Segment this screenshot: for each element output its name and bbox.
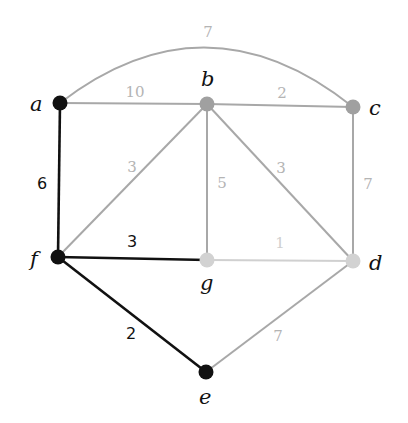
node-g [200,253,215,268]
edge-weight-b-c: 2 [277,84,287,102]
edge-weight-d-e: 7 [273,327,283,345]
node-c [346,100,361,115]
node-labels-layer: abcfgde [28,67,382,409]
nodes-layer [51,96,361,380]
edge-weight-f-g: 3 [127,232,137,251]
node-label-c: c [369,96,381,120]
edge-weight-b-f: 3 [127,158,137,176]
node-label-b: b [201,67,214,91]
edge-b-c [207,104,353,107]
edge-f-g [58,257,207,260]
node-label-a: a [30,92,43,116]
edge-weight-b-g: 5 [217,174,227,192]
edge-a-b [60,103,207,104]
node-b [200,97,215,112]
edge-f-e [58,257,206,372]
node-label-f: f [28,247,41,271]
edge-weight-g-d: 1 [275,234,285,252]
weighted-graph-diagram: 7102635373127 abcfgde [0,0,408,423]
node-d [346,254,361,269]
edge-a-f [58,103,60,257]
edges-layer [58,47,353,372]
edge-weight-c-d: 7 [363,175,373,193]
node-label-d: d [369,251,382,275]
node-e [199,365,214,380]
node-a [53,96,68,111]
node-label-e: e [199,385,211,409]
edge-weight-f-e: 2 [126,324,136,343]
edge-d-e [206,261,353,372]
edge-weight-a-c: 7 [203,23,213,41]
edge-weight-a-b: 10 [125,83,144,101]
node-f [51,250,66,265]
edge-weight-a-f: 6 [37,174,47,193]
edge-weight-b-d: 3 [276,159,286,177]
edge-g-d [207,260,353,261]
node-label-g: g [200,271,213,295]
